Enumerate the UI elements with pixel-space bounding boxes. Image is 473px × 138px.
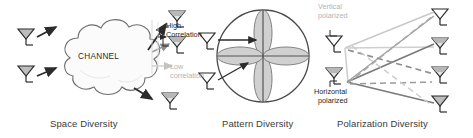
pol-rx-antenna-2 — [432, 38, 448, 54]
channel-label: CHANNEL — [78, 52, 119, 61]
high-correlation-label-line2: Correlation — [166, 31, 202, 40]
space-tx-antenna-1 — [18, 29, 34, 45]
space-tx-antenna-2 — [18, 66, 34, 82]
space-tx-arrow-2 — [37, 68, 56, 76]
low-correlation-label-line2: correlation — [170, 72, 204, 81]
pol-path-dashed — [348, 15, 434, 104]
pol-path-solid-light — [345, 12, 434, 83]
horizontal-polarized-label-line2: polarized — [318, 97, 348, 106]
space-rx-arrow-bottom — [134, 88, 152, 99]
space-rx-antenna-3 — [162, 93, 178, 109]
caption-space-diversity: Space Diversity — [50, 118, 118, 129]
pol-rx-antenna-3 — [432, 67, 448, 83]
caption-pattern-diversity: Pattern Diversity — [222, 118, 293, 129]
pol-tx-antenna-horizontal — [326, 68, 342, 84]
diversity-figure: CHANNEL High Correlation Low correlation… — [0, 0, 473, 138]
space-tx-arrow-1 — [37, 27, 56, 37]
vertical-polarized-label-line2: polarized — [318, 12, 348, 21]
pol-tx-antenna-vertical — [326, 36, 342, 52]
caption-polarization-diversity: Polarization Diversity — [337, 118, 428, 129]
panel-pattern-diversity — [199, 10, 309, 102]
pol-rx-antenna-4 — [432, 96, 448, 112]
pol-rx-antenna-1 — [432, 9, 448, 25]
